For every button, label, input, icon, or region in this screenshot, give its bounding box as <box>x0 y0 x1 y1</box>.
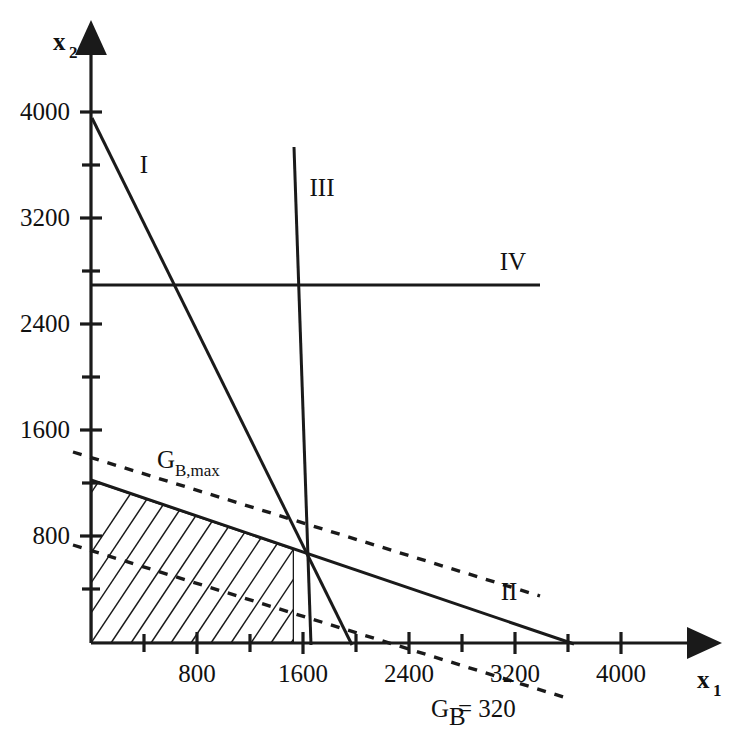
x-tick-label-1600: 1600 <box>278 660 328 687</box>
label-constraint-III: III <box>310 174 335 201</box>
y-tick-label-1600: 1600 <box>20 416 70 443</box>
constraint-line-II <box>91 480 574 644</box>
linear-programming-chart: 800 1600 2400 3200 4000 800 1600 2400 32… <box>0 0 745 736</box>
y-axis-title-main: x <box>53 28 66 55</box>
y-tick-label-2400: 2400 <box>20 310 70 337</box>
label-constraint-II: II <box>501 578 518 605</box>
x-tick-label-2400: 2400 <box>384 660 434 687</box>
label-constraint-IV: IV <box>500 248 526 275</box>
label-constraint-I: I <box>140 151 148 178</box>
label-objective-value: = 320 <box>458 695 516 722</box>
figure-page: 800 1600 2400 3200 4000 800 1600 2400 32… <box>0 0 745 736</box>
label-optimum-main: G <box>157 446 175 473</box>
y-tick-label-4000: 4000 <box>20 98 70 125</box>
y-tick-label-800: 800 <box>33 522 71 549</box>
x-axis-title-main: x <box>697 666 710 693</box>
x-axis-title: x 1 <box>697 666 722 700</box>
y-tick-label-3200: 3200 <box>20 204 70 231</box>
label-optimum-gbmax: G B,max <box>157 446 220 480</box>
label-objective-main: G <box>431 695 449 722</box>
x-tick-label-800: 800 <box>178 660 216 687</box>
label-optimum-sub: B,max <box>175 461 220 480</box>
label-objective-gb320: G B = 320 <box>431 695 516 730</box>
x-tick-label-3200: 3200 <box>490 660 540 687</box>
x-axis-title-sub: 1 <box>713 681 722 700</box>
feasible-region-hatching <box>0 403 471 643</box>
y-axis-title-sub: 2 <box>69 43 78 62</box>
y-axis-title: x 2 <box>53 28 78 62</box>
x-tick-label-4000: 4000 <box>596 660 646 687</box>
constraint-line-III <box>294 147 311 645</box>
